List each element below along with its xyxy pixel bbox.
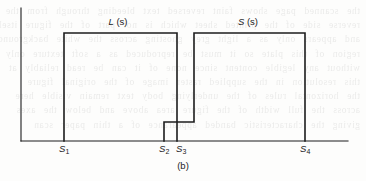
tick-label-s3-index: 3 — [183, 148, 187, 155]
tick-label-s1: S1 — [59, 143, 69, 154]
tick-label-s1-index: 1 — [66, 148, 70, 155]
figure-caption: (b) — [0, 160, 366, 171]
L-curve-label: L (s) — [108, 16, 127, 27]
tick-label-s4: S4 — [300, 143, 310, 154]
series-group — [64, 33, 305, 141]
tick-label-s4-index: 4 — [307, 148, 311, 155]
figure-container: the scanned page shows faint reversed te… — [0, 0, 366, 181]
S-curve-label: S (s) — [238, 16, 258, 27]
series-line-L — [64, 33, 177, 141]
tick-label-s2-index: 2 — [166, 148, 170, 155]
S-curve-label-argument: (s) — [244, 16, 258, 27]
tick-label-s2-symbol: S — [159, 143, 165, 154]
tick-label-s3: S3 — [176, 143, 186, 154]
series-line-S — [164, 33, 305, 141]
L-curve-label-argument: (s) — [114, 16, 128, 27]
tick-label-s3-symbol: S — [176, 143, 182, 154]
tick-label-s4-symbol: S — [300, 143, 306, 154]
tick-label-s2: S2 — [159, 143, 169, 154]
axes-group — [21, 8, 348, 141]
tick-label-s1-symbol: S — [59, 143, 65, 154]
